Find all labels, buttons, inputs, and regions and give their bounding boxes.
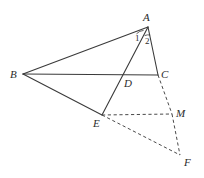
angle-label-1: 1	[135, 34, 140, 43]
point-label-E: E	[93, 118, 100, 129]
segment-MF	[172, 114, 180, 155]
point-label-M: M	[176, 108, 185, 119]
dashed-edges	[102, 75, 180, 155]
segment-AC	[148, 27, 158, 75]
segment-BA	[23, 27, 148, 74]
segment-BE	[23, 74, 102, 115]
segment-EF	[102, 115, 180, 155]
point-label-F: F	[184, 157, 191, 168]
diagram-canvas	[0, 0, 204, 178]
point-label-A: A	[143, 12, 150, 23]
segment-EM	[102, 114, 172, 115]
point-label-B: B	[10, 69, 17, 80]
point-label-C: C	[161, 69, 168, 80]
point-label-D: D	[124, 78, 132, 89]
angle-label-2: 2	[145, 37, 150, 46]
segment-AE	[102, 27, 148, 115]
segment-BC	[23, 74, 158, 75]
segment-CM	[158, 75, 172, 114]
geometry-diagram: A B C D E M F 1 2	[0, 0, 204, 178]
